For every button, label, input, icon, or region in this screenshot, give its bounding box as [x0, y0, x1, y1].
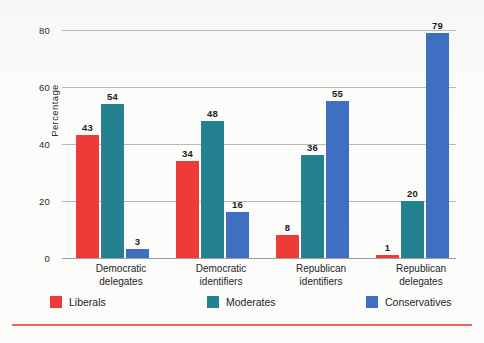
plot-area: 43 54 3 34 48 16 8	[62, 30, 456, 258]
legend-swatch-icon	[207, 296, 219, 308]
legend-label: Moderates	[226, 296, 276, 308]
bar-value-label: 48	[196, 108, 230, 119]
bar-republican-identifiers-moderates[interactable]: 36	[301, 155, 324, 258]
legend-label: Liberals	[69, 296, 106, 308]
bar-value-label: 54	[96, 91, 130, 102]
bar-value-label: 55	[321, 88, 355, 99]
bar-value-label: 20	[396, 188, 430, 199]
bar-value-label: 36	[296, 142, 330, 153]
category-label-republican-delegates: Republican delegates	[361, 263, 481, 288]
chart-legend: Liberals Moderates Conservatives	[0, 296, 484, 312]
bar-republican-delegates-liberals[interactable]: 1	[376, 255, 399, 258]
y-tick-0: 0	[10, 253, 50, 264]
bar-value-label: 16	[221, 199, 255, 210]
bar-republican-identifiers-conservatives[interactable]: 55	[326, 101, 349, 258]
bar-democratic-identifiers-moderates[interactable]: 48	[201, 121, 224, 258]
bar-democratic-delegates-moderates[interactable]: 54	[101, 104, 124, 258]
bar-value-label: 3	[121, 236, 155, 247]
bar-democratic-delegates-liberals[interactable]: 43	[76, 135, 99, 258]
bar-group-republican-identifiers: 8 36 55	[276, 30, 366, 258]
y-tick-80: 80	[10, 25, 50, 36]
footer-rule-divider	[12, 324, 472, 326]
bar-democratic-delegates-conservatives[interactable]: 3	[126, 249, 149, 258]
category-label-line1: Republican	[361, 263, 481, 276]
bar-republican-delegates-conservatives[interactable]: 79	[426, 33, 449, 258]
bar-democratic-identifiers-liberals[interactable]: 34	[176, 161, 199, 258]
bar-republican-identifiers-liberals[interactable]: 8	[276, 235, 299, 258]
y-axis-label: Percentage	[49, 51, 60, 171]
legend-item-liberals[interactable]: Liberals	[50, 296, 106, 308]
axis-baseline	[62, 258, 456, 259]
y-tick-60: 60	[10, 82, 50, 93]
bar-republican-delegates-moderates[interactable]: 20	[401, 201, 424, 258]
legend-item-moderates[interactable]: Moderates	[207, 296, 276, 308]
legend-swatch-icon	[50, 296, 62, 308]
legend-label: Conservatives	[385, 296, 452, 308]
bar-group-republican-delegates: 1 20 79	[376, 30, 466, 258]
bar-value-label: 43	[71, 122, 105, 133]
bar-value-label: 79	[421, 20, 455, 31]
bar-value-label: 1	[371, 242, 405, 253]
bar-value-label: 8	[271, 222, 305, 233]
y-tick-40: 40	[10, 139, 50, 150]
bar-democratic-identifiers-conservatives[interactable]: 16	[226, 212, 249, 258]
bar-group-democratic-delegates: 43 54 3	[76, 30, 166, 258]
bar-value-label: 34	[171, 148, 205, 159]
bar-chart-figure: 80 60 40 20 0 Percentage 43 54 3 34	[0, 0, 484, 343]
y-tick-20: 20	[10, 196, 50, 207]
bar-group-democratic-identifiers: 34 48 16	[176, 30, 266, 258]
legend-swatch-icon	[366, 296, 378, 308]
legend-item-conservatives[interactable]: Conservatives	[366, 296, 452, 308]
category-label-line2: delegates	[361, 276, 481, 289]
